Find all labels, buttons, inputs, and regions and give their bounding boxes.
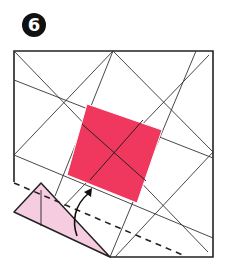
folded-flap xyxy=(14,183,110,257)
origami-diagram xyxy=(0,0,227,268)
